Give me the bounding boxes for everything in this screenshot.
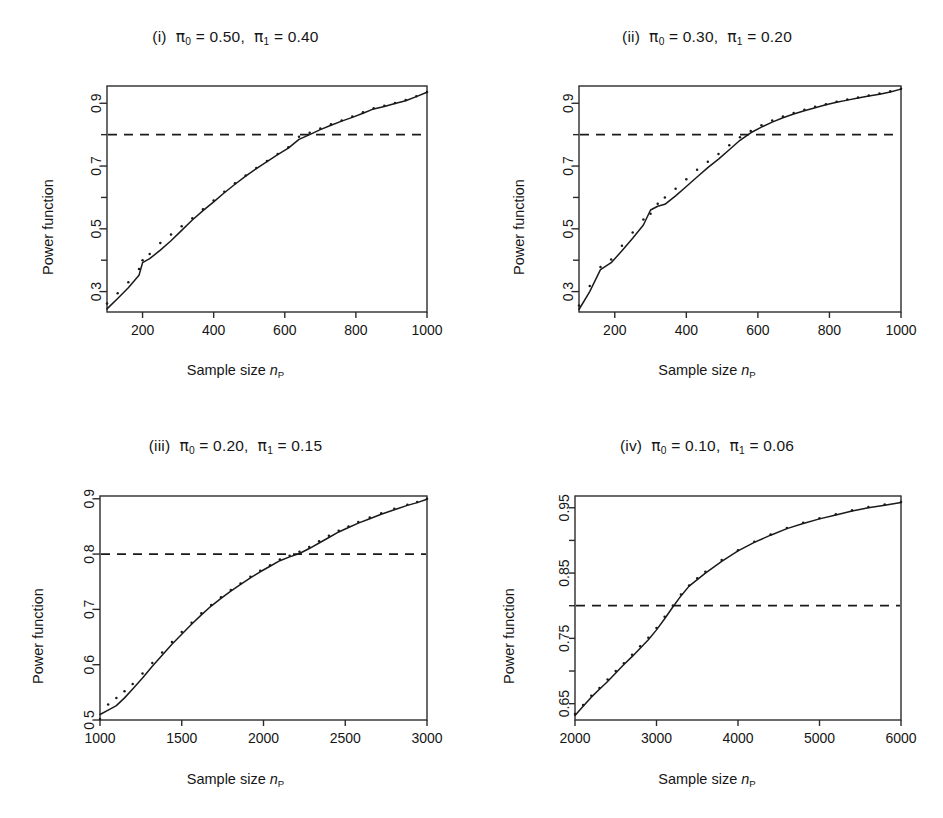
panel-iv-xtick-label: 4000 — [722, 730, 753, 746]
panel-i-x-axis-label: Sample size nP — [0, 362, 471, 378]
panel-iv-xtick-label: 6000 — [885, 730, 916, 746]
panel-ii-ytick-label: 0.5 — [560, 219, 576, 239]
panel-i-ytick-label: 0.7 — [88, 156, 104, 176]
panel-iv-ytick-label: 0.65 — [556, 690, 572, 717]
panel-iii-ytick-label: 0.8 — [81, 544, 97, 564]
panel-iii-xtick-label: 1500 — [166, 730, 197, 746]
panel-i: (i) π0 = 0.50, π1 = 0.40 Power function … — [0, 0, 471, 409]
panel-iii-ytick-label: 0.5 — [81, 710, 97, 730]
panel-iv: (iv) π0 = 0.10, π1 = 0.06 Power function… — [471, 409, 943, 818]
panel-ii-ytick-label: 0.3 — [560, 282, 576, 302]
panel-ii-xtick-label: 1000 — [885, 322, 916, 338]
panel-ii-ytick-label: 0.7 — [560, 156, 576, 176]
panel-iv-x-axis-label: Sample size nP — [471, 771, 943, 787]
panel-iv-plot: 0.650.750.850.9520003000400050006000 — [471, 409, 943, 818]
panel-ii-plot: 0.30.50.70.92004006008001000 — [471, 0, 943, 409]
panel-i-ytick-label: 0.5 — [88, 219, 104, 239]
panel-i-solid-power-curve — [107, 92, 427, 309]
panel-iv-plot-frame — [575, 496, 901, 720]
panel-iii-svg: 0.50.60.70.80.910001500200025003000 — [0, 409, 471, 818]
panel-ii-dotted-simulated-power — [578, 88, 903, 307]
panel-ii-xtick-label: 600 — [746, 322, 770, 338]
panel-iii-solid-power-curve — [100, 499, 427, 714]
panel-ii: (ii) π0 = 0.30, π1 = 0.20 Power function… — [471, 0, 943, 409]
panel-ii-xtick-label: 200 — [603, 322, 627, 338]
panel-iii-ytick-label: 0.6 — [81, 655, 97, 675]
panel-ii-solid-power-curve — [579, 89, 901, 309]
panel-iii: (iii) π0 = 0.20, π1 = 0.15 Power functio… — [0, 409, 471, 818]
panel-iii-xtick-label: 2500 — [330, 730, 361, 746]
panel-iii-plot-frame — [100, 496, 427, 720]
panel-ii-x-axis-label: Sample size nP — [471, 362, 943, 378]
panel-iv-ytick-label: 0.85 — [556, 559, 572, 586]
panel-ii-plot-frame — [579, 86, 901, 312]
panel-i-xtick-label: 200 — [131, 322, 155, 338]
panel-ii-svg: 0.30.50.70.92004006008001000 — [471, 0, 942, 409]
panel-iii-dotted-simulated-power — [99, 498, 429, 721]
panel-iv-svg: 0.650.750.850.9520003000400050006000 — [471, 409, 942, 818]
panel-i-xtick-label: 1000 — [411, 322, 442, 338]
panel-iv-dotted-simulated-power — [574, 501, 903, 716]
panel-iii-xtick-label: 1000 — [84, 730, 115, 746]
panel-ii-xtick-label: 800 — [818, 322, 842, 338]
panel-i-dotted-simulated-power — [106, 91, 429, 305]
panel-i-xtick-label: 600 — [273, 322, 297, 338]
panel-i-svg: 0.30.50.70.92004006008001000 — [0, 0, 471, 409]
panel-i-xtick-label: 400 — [202, 322, 226, 338]
panel-iv-ytick-label: 0.95 — [556, 494, 572, 521]
panel-i-xtick-label: 800 — [344, 322, 368, 338]
panel-iv-solid-power-curve — [575, 503, 901, 716]
panel-i-ytick-label: 0.3 — [88, 282, 104, 302]
panel-iii-xtick-label: 3000 — [411, 730, 442, 746]
panel-iv-xtick-label: 5000 — [804, 730, 835, 746]
panel-iii-x-axis-label: Sample size nP — [0, 771, 471, 787]
power-function-figure: (i) π0 = 0.50, π1 = 0.40 Power function … — [0, 0, 943, 818]
panel-ii-xtick-label: 400 — [675, 322, 699, 338]
panel-i-ytick-label: 0.9 — [88, 93, 104, 113]
panel-i-plot-frame — [107, 86, 427, 312]
panel-iv-xtick-label: 2000 — [559, 730, 590, 746]
panel-iv-ytick-label: 0.75 — [556, 625, 572, 652]
panel-iii-ytick-label: 0.9 — [81, 489, 97, 509]
panel-iii-ytick-label: 0.7 — [81, 599, 97, 619]
panel-iii-plot: 0.50.60.70.80.910001500200025003000 — [0, 409, 471, 818]
panel-i-plot: 0.30.50.70.92004006008001000 — [0, 0, 471, 409]
panel-ii-ytick-label: 0.9 — [560, 93, 576, 113]
panel-iii-xtick-label: 2000 — [248, 730, 279, 746]
panel-iv-xtick-label: 3000 — [641, 730, 672, 746]
